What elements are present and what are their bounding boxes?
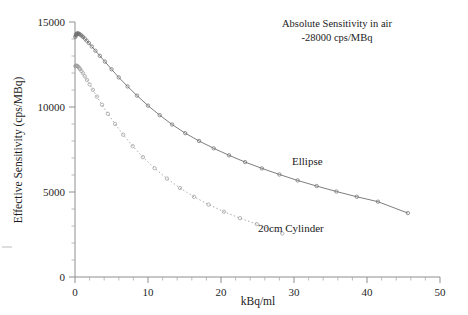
data-point-marker (88, 83, 91, 86)
y-tick-label: 10000 (38, 101, 66, 113)
series-ellipse (74, 32, 410, 215)
data-point-marker (113, 122, 116, 125)
ellipse-curve-label: Ellipse (292, 155, 323, 167)
data-point-marker (207, 203, 210, 206)
chart-figure: 050001000015000 01020304050 kBq/ml Effec… (0, 0, 468, 315)
data-point-marker (165, 177, 168, 180)
series-cylinder (74, 64, 284, 235)
y-axis-ticks: 050001000015000 (38, 16, 76, 283)
absolute-sensitivity-note-line1: Absolute Sensitivity in air (282, 18, 392, 29)
sensitivity-line-chart: 050001000015000 01020304050 kBq/ml Effec… (0, 0, 468, 315)
y-tick-label: 0 (60, 271, 66, 283)
x-tick-label: 40 (362, 286, 374, 298)
series-line (75, 33, 408, 213)
x-tick-label: 10 (143, 286, 155, 298)
y-tick-label: 15000 (38, 16, 66, 28)
x-tick-label: 0 (72, 286, 78, 298)
series-layer (74, 32, 410, 235)
y-axis-title: Effective Sensitivity (cps/MBq) (12, 76, 25, 223)
x-axis-title: kBq/ml (241, 295, 276, 308)
y-tick-label: 5000 (43, 186, 66, 198)
cylinder-curve-label: 20cm Cylinder (258, 222, 324, 234)
absolute-sensitivity-note-line2: -28000 cps/MBq (302, 32, 374, 43)
data-point-marker (100, 103, 103, 106)
x-tick-label: 30 (289, 286, 301, 298)
x-tick-label: 20 (216, 286, 228, 298)
data-point-marker (121, 133, 124, 136)
series-line (75, 66, 282, 234)
plot-frame (2, 22, 440, 277)
data-point-marker (238, 216, 241, 219)
data-point-marker (153, 167, 156, 170)
data-point-marker (106, 112, 109, 115)
x-tick-label: 50 (435, 286, 447, 298)
